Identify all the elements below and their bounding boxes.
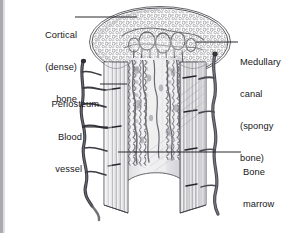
label-medullary-line1: Medullary [240,57,281,68]
label-periosteum-line1: Periosteum [52,99,100,110]
label-bonemarrow-line2: marrow [243,199,274,210]
label-bone-marrow: Bone marrow [243,146,274,220]
left-page-edge [0,0,3,233]
label-blood-vessel: Blood vessel [55,111,82,185]
cortical-shaft-right [180,62,206,213]
cortical-shaft-left [104,62,128,213]
label-medullary-line2: canal [240,89,281,100]
label-medullary-line3: (spongy [240,121,281,132]
label-blood-line2: vessel [55,164,82,175]
label-cortical-line1: Cortical [45,30,77,41]
label-blood-line1: Blood [55,132,82,143]
label-bonemarrow-line1: Bone [243,167,274,178]
left-page-edge-soft [3,0,5,233]
bone-drawing [75,7,241,221]
medullary-canal-interior [124,56,184,182]
label-cortical-line2: (dense) [45,62,77,73]
